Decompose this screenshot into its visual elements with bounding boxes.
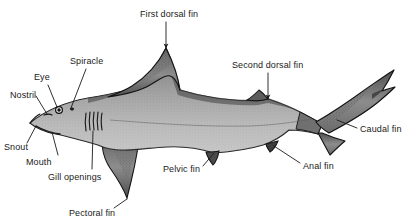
label-snout: Snout <box>4 142 28 153</box>
label-pelvic-fin: Pelvic fin <box>163 164 200 175</box>
leader-snout <box>27 126 36 143</box>
leader-nostril <box>36 96 47 114</box>
shark-illustration <box>0 0 404 224</box>
leader-anal-fin <box>274 146 300 163</box>
leader-pectoral-fin <box>114 199 127 208</box>
leader-mouth <box>52 132 58 155</box>
label-caudal-fin: Caudal fin <box>360 124 402 135</box>
label-first-dorsal-fin: First dorsal fin <box>140 9 198 20</box>
label-eye: Eye <box>34 72 50 83</box>
label-second-dorsal-fin: Second dorsal fin <box>232 60 303 71</box>
label-pectoral-fin: Pectoral fin <box>69 208 115 219</box>
label-anal-fin: Anal fin <box>303 161 334 172</box>
second-dorsal-fin-shape <box>247 90 268 101</box>
label-spiracle: Spiracle <box>70 56 103 67</box>
shark-anatomy-figure: First dorsal fin Second dorsal fin Spira… <box>0 0 404 224</box>
leader-eye <box>48 85 57 107</box>
label-mouth: Mouth <box>26 157 52 168</box>
label-nostril: Nostril <box>10 90 36 101</box>
caudal-fin-lower-lobe <box>318 133 345 155</box>
label-gill-openings: Gill openings <box>48 172 101 183</box>
eye-pupil <box>57 108 60 111</box>
pelvic-fin-shape <box>206 151 219 165</box>
